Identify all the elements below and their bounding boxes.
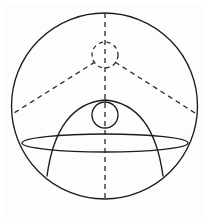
diagram-svg	[0, 0, 208, 224]
margin-left	[0, 0, 3, 224]
margin-right	[204, 0, 208, 224]
diagram-canvas	[0, 0, 208, 224]
top-circle	[92, 42, 118, 68]
margin-top	[0, 0, 208, 4]
right-diagonal-line	[115, 62, 195, 113]
arch-parabola	[47, 100, 163, 176]
margin-bottom	[0, 218, 208, 224]
left-diagonal-line	[14, 62, 95, 113]
